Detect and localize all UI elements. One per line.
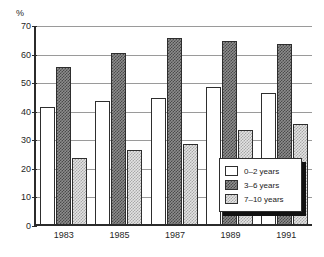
bar xyxy=(167,38,182,224)
legend-swatch xyxy=(225,194,238,204)
legend-label: 3–6 years xyxy=(244,181,279,190)
bar xyxy=(40,107,55,224)
bar-group xyxy=(91,26,146,224)
chart-legend: 0–2 years3–6 years7–10 years xyxy=(219,158,302,212)
y-axis-tick-label: 30 xyxy=(21,135,31,145)
bar xyxy=(151,98,166,224)
legend-label: 0–2 years xyxy=(244,167,279,176)
y-axis-unit-label: % xyxy=(16,8,24,18)
y-axis-tick-label: 10 xyxy=(21,192,31,202)
legend-swatch xyxy=(225,180,238,190)
y-axis-tick-label: 20 xyxy=(21,164,31,174)
bar xyxy=(127,150,142,224)
legend-item: 3–6 years xyxy=(225,178,295,192)
y-axis-tick-label: 50 xyxy=(21,78,31,88)
bar-chart-figure: % 010203040506070 19831985198719891991 0… xyxy=(0,0,324,257)
bar xyxy=(56,67,71,224)
legend-label: 7–10 years xyxy=(244,195,284,204)
y-axis-tick-label: 40 xyxy=(21,107,31,117)
x-axis-tick-label: 1989 xyxy=(221,230,241,240)
legend-item: 7–10 years xyxy=(225,192,295,206)
legend-item: 0–2 years xyxy=(225,164,295,178)
y-axis-tick-label: 60 xyxy=(21,50,31,60)
bar xyxy=(72,158,87,224)
y-axis-tick-label: 0 xyxy=(26,221,31,231)
x-axis-tick-label: 1991 xyxy=(276,230,296,240)
y-axis-tick-mark xyxy=(32,226,37,227)
bar xyxy=(111,53,126,224)
y-axis-tick-label: 70 xyxy=(21,21,31,31)
bar-group xyxy=(146,26,201,224)
x-axis-tick-label: 1987 xyxy=(165,230,185,240)
bar xyxy=(183,144,198,224)
bar-group xyxy=(36,26,91,224)
bar xyxy=(95,101,110,224)
x-axis-tick-label: 1985 xyxy=(109,230,129,240)
cut-off-title-remnant xyxy=(96,0,226,5)
x-axis-tick-label: 1983 xyxy=(54,230,74,240)
legend-swatch xyxy=(225,166,238,176)
